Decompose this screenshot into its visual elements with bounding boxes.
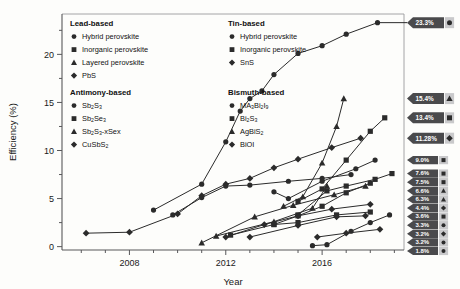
x-tick-label: 2016 [312, 258, 332, 268]
series-point-ma3bi2i9 [368, 220, 373, 225]
callout-value: 7.5% [416, 179, 430, 185]
callout-marker [442, 249, 446, 253]
callout-value: 3.2% [416, 239, 430, 245]
x-axis-title: Year [223, 276, 242, 287]
legend-item-label: Inorganic perovskite [82, 45, 148, 54]
x-tick-label: 2012 [216, 258, 236, 268]
legend-item-label: Inorganic perovskite [240, 45, 306, 54]
legend-marker-circle [230, 34, 235, 39]
series-point-lead-layered-perovskite [333, 123, 340, 129]
legend-item-label: Hybrid perovskite [240, 32, 297, 41]
callout-marker [442, 223, 446, 227]
callout-marker [447, 115, 452, 120]
legend-marker-square [72, 47, 77, 52]
series-point-lead-layered-perovskite [341, 95, 348, 101]
series-point-tin-inorganic-perovskite [344, 183, 349, 188]
series-point-lead-hybrid-perovskite [344, 32, 349, 37]
legend-item-label: Sb2Se3 [82, 114, 106, 123]
series-point-lead-hybrid-perovskite [271, 72, 276, 77]
series-point-bi2s3 [295, 220, 300, 225]
series-point-ma3bi2i9 [310, 243, 315, 248]
series-point-pbs [246, 175, 253, 182]
series-point-agbis2 [309, 205, 316, 211]
callout-value: 11.28% [416, 135, 438, 142]
series-point-tin-inorganic-perovskite [372, 177, 377, 182]
legend-item-label: CuSbS2 [82, 140, 108, 149]
legend-marker-triangle [71, 60, 77, 65]
y-axis-title: Efficiency (%) [7, 103, 18, 161]
y-tick-label: 10 [44, 146, 54, 156]
legend-item-label: Layered perovskite [82, 58, 144, 67]
legend-marker-circle [72, 103, 77, 108]
legend-item-label: Bi2S3 [240, 114, 257, 123]
series-point-lead-inorganic-perovskite [382, 115, 387, 120]
series-line-lead-layered-perovskite [284, 99, 344, 207]
callout-value: 6.3% [416, 196, 430, 202]
series-point-bioi [314, 234, 321, 241]
legend-marker-diamond [229, 141, 235, 147]
series-point-bi2s3 [334, 212, 339, 217]
series-point-sb2s3-xsex [198, 240, 205, 246]
y-tick-label: 5 [49, 194, 54, 204]
callout-value: 3.3% [416, 222, 430, 228]
series-point-sns [328, 206, 335, 213]
callout-value: 9.0% [416, 157, 430, 163]
series-point-tin-hybrid-perovskite [286, 196, 291, 201]
legend-item-label: BiOI [240, 140, 254, 149]
callout-marker [442, 158, 446, 162]
x-tick-label: 2008 [119, 258, 139, 268]
series-point-sb2s3 [320, 176, 325, 181]
y-tick-label: 15 [44, 98, 54, 108]
legend-group-title: Lead-based [70, 19, 114, 28]
series-point-sb2s3 [247, 183, 252, 188]
legend-group-title: Bismuth-based [228, 88, 285, 97]
callout-marker [447, 20, 452, 25]
series-point-ma3bi2i9 [387, 212, 392, 217]
callout-marker [442, 215, 446, 219]
legend-marker-triangle [71, 129, 77, 134]
callout-marker [442, 172, 446, 176]
legend-item-label: AgBiS2 [240, 127, 264, 136]
series-point-lead-layered-perovskite [319, 160, 326, 166]
legend-marker-triangle [229, 129, 235, 134]
callout-value: 1.8% [416, 248, 430, 254]
series-point-cusbs2 [246, 234, 253, 241]
y-tick-label: 20 [44, 50, 54, 60]
legend-item-label: MA3Bi2I9 [240, 101, 269, 110]
series-point-lead-inorganic-perovskite [368, 129, 373, 134]
legend-marker-diamond [71, 141, 77, 147]
legend-group-title: Tin-based [228, 19, 265, 28]
callout-value: 15.4% [416, 95, 434, 102]
legend-item-label: Hybrid perovskite [82, 32, 139, 41]
legend-marker-square [72, 116, 77, 121]
series-point-bioi [377, 226, 384, 233]
legend-marker-diamond [229, 59, 235, 65]
series-point-sb2s3 [286, 179, 291, 184]
series-point-sb2s3 [223, 183, 228, 188]
legend-item-label: Sb2S3 [82, 101, 102, 110]
series-point-pbs [295, 156, 302, 163]
callout-value: 3.2% [416, 231, 430, 237]
legend-item-label: PbS [82, 71, 96, 80]
series-point-lead-hybrid-perovskite [151, 208, 156, 213]
callout-value: 7.6% [416, 170, 430, 176]
series-point-sb2s3 [170, 212, 175, 217]
callout-value: 6.6% [416, 188, 430, 194]
series-point-tin-hybrid-perovskite [372, 158, 377, 163]
series-point-pbs [126, 229, 133, 236]
legend-marker-square [230, 116, 235, 121]
chart-canvas: 05101520200820122016YearEfficiency (%)Le… [0, 0, 460, 289]
series-point-pbs [83, 230, 90, 237]
legend-item-label: Sb2S3-xSex [82, 127, 121, 136]
legend-marker-circle [72, 34, 77, 39]
series-point-sb2s3 [348, 172, 353, 177]
callout-marker [442, 180, 446, 184]
series-point-tin-inorganic-perovskite [389, 171, 394, 176]
legend-item-label: SnS [240, 58, 254, 67]
callout-value: 3.6% [416, 213, 430, 219]
series-point-lead-layered-perovskite [300, 193, 307, 199]
series-point-pbs [271, 164, 278, 171]
series-point-sb2se3 [320, 204, 325, 209]
legend-group-title: Antimony-based [70, 88, 131, 97]
series-point-lead-hybrid-perovskite [223, 139, 228, 144]
